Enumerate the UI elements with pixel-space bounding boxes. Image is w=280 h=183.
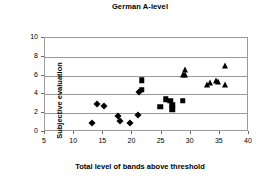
x-tick-label-5: 5	[32, 137, 56, 145]
y-tick-label-10: 10	[12, 33, 38, 41]
data-point-diamond	[117, 117, 124, 124]
data-point-square	[180, 98, 186, 104]
y-tick-label-4: 4	[12, 89, 38, 97]
x-tick-label-30: 30	[178, 137, 202, 145]
data-point-square	[139, 78, 145, 84]
y-tick-label-8: 8	[12, 52, 38, 60]
chart-title: German A-level	[0, 2, 280, 11]
y-tick-mark-4	[41, 93, 44, 94]
x-tick-mark-25	[161, 131, 162, 134]
y-tick-mark-6	[41, 75, 44, 76]
y-tick-mark-8	[41, 56, 44, 57]
x-tick-mark-15	[102, 131, 103, 134]
x-tick-label-25: 25	[149, 137, 173, 145]
data-point-triangle	[182, 71, 188, 77]
data-point-square	[158, 104, 164, 110]
gridline-y-4	[45, 94, 247, 95]
x-tick-mark-20	[131, 131, 132, 134]
data-point-square	[139, 87, 145, 93]
x-tick-mark-35	[219, 131, 220, 134]
data-point-diamond	[88, 119, 95, 126]
gridline-y-2	[45, 113, 247, 114]
data-point-square	[169, 107, 175, 113]
y-tick-label-6: 6	[12, 71, 38, 79]
x-tick-mark-10	[73, 131, 74, 134]
x-tick-mark-5	[44, 131, 45, 134]
y-tick-mark-2	[41, 112, 44, 113]
x-tick-label-20: 20	[119, 137, 143, 145]
data-point-triangle	[215, 79, 221, 85]
y-tick-mark-10	[41, 37, 44, 38]
y-tick-label-0: 0	[12, 127, 38, 135]
data-point-triangle	[222, 63, 228, 69]
data-point-triangle	[222, 81, 228, 87]
y-tick-label-2: 2	[12, 108, 38, 116]
data-point-diamond	[126, 119, 133, 126]
x-tick-label-35: 35	[207, 137, 231, 145]
x-tick-label-40: 40	[236, 137, 260, 145]
x-tick-mark-40	[248, 131, 249, 134]
gridline-y-8	[45, 57, 247, 58]
gridline-y-6	[45, 76, 247, 77]
x-axis-label: Total level of bands above threshold	[0, 162, 280, 171]
x-tick-label-15: 15	[90, 137, 114, 145]
plot-frame: Subjective evaluation	[44, 37, 248, 131]
x-tick-label-10: 10	[61, 137, 85, 145]
chart-page: German A-level Subjective evaluation 024…	[0, 0, 280, 183]
data-point-diamond	[101, 102, 108, 109]
x-tick-mark-30	[190, 131, 191, 134]
